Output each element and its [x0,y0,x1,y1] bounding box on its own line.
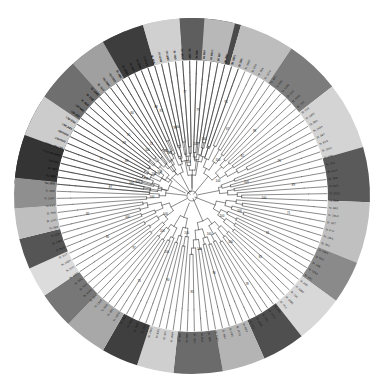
branch-segment [80,262,94,272]
branch-segment [223,237,260,286]
branch-segment [162,203,169,205]
branch-segment [164,236,182,309]
branch-segment [201,249,212,314]
branch-segment [98,280,110,293]
branch-segment [301,211,326,214]
branch-segment [58,184,76,186]
support-value: 73 [137,279,141,283]
branch-segment [183,61,185,83]
support-value: 74 [150,142,154,146]
support-value: 85 [259,255,263,259]
branch-segment [150,189,161,191]
branch-segment [271,291,278,300]
branch-segment [100,97,109,107]
tip-label: St. 55/5 [185,333,189,343]
branch-segment [155,208,163,211]
branch-segment [198,191,219,195]
branch-segment [244,294,255,315]
branch-segment [162,64,165,76]
support-value: 100 [125,215,130,219]
branch-segment [122,80,131,94]
branch-segment [109,283,124,302]
support-value: 100 [219,214,224,218]
branch-segment [171,199,187,207]
branch-segment [84,270,94,278]
branch-segment [169,237,171,241]
branch-segment [95,102,104,110]
ring-sector-layer [14,18,370,374]
branch-segment [168,224,171,228]
branch-segment [61,163,79,167]
support-value: 86 [125,159,129,163]
branch-segment [71,197,147,198]
support-value: 95 [127,133,131,137]
branch-segment [166,312,169,328]
branch-segment [205,148,208,157]
branch-segment [184,203,190,217]
branch-segment [111,88,118,98]
support-value: 76 [278,159,282,163]
branch-segment [242,194,309,195]
support-value: 77 [183,90,187,94]
support-value: 88 [154,105,158,109]
support-value: 100 [244,180,249,184]
branch-segment [221,65,224,78]
branch-segment [314,207,327,208]
branch-segment [222,186,230,188]
support-value: 91 [225,100,229,104]
branch-segment [296,253,310,261]
branch-segment [238,169,247,173]
branch-segment [223,222,233,230]
branch-segment [203,238,205,244]
branch-segment [231,169,310,187]
branch-arc [188,198,191,200]
branch-segment [185,218,187,228]
branch-segment [184,237,186,247]
branch-segment [58,177,79,180]
branch-segment [309,166,323,169]
branch-segment [59,216,76,219]
branch-segment [287,263,302,274]
branch-segment [166,193,186,195]
branch-segment [164,219,168,223]
branch-segment [297,247,313,255]
support-value: 100 [135,180,140,184]
branch-segment [216,85,246,147]
branch-segment [289,115,300,123]
branch-segment [218,307,223,328]
branch-segment [278,279,289,290]
branch-segment [211,235,214,241]
branch-segment [300,145,317,152]
support-value: 100 [197,247,202,251]
support-value: 100 [160,229,165,233]
branch-segment [221,210,227,213]
branch-segment [70,192,149,195]
branch-segment [302,152,320,158]
branch-segment [58,210,77,212]
support-value: 100 [186,160,191,164]
branch-segment [229,231,278,279]
branch-segment [176,62,178,76]
support-value: 75 [100,157,104,161]
branch-segment [150,219,159,226]
branch-segment [228,171,238,176]
support-value: 100 [207,232,212,236]
support-value: 87 [109,185,113,189]
branch-segment [172,228,176,238]
branch-segment [188,254,190,310]
support-value: 100 [151,172,156,176]
branch-segment [195,230,196,239]
branch-segment [308,200,326,201]
branch-segment [234,69,238,80]
branch-segment [218,187,221,188]
branch-segment [172,81,183,142]
branch-segment [160,84,178,148]
branch-segment [193,198,203,221]
branch-segment [223,163,229,168]
tip-label: St. 75/6 [188,50,192,60]
branch-segment [290,133,312,144]
branch-segment [148,68,152,79]
branch-segment [225,310,230,326]
branch-segment [259,85,269,100]
support-value: 100 [157,170,162,174]
